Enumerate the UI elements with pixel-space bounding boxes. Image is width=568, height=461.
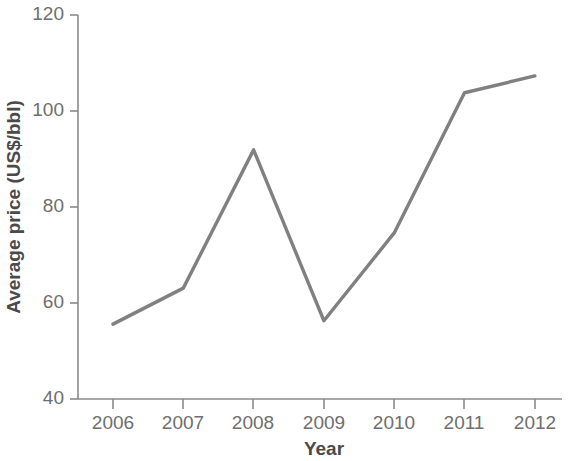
x-tick-label-2009: 2009 (303, 412, 345, 433)
y-tick-label-60: 60 (43, 291, 64, 312)
y-axis-title: Average price (US$/bbl) (3, 100, 24, 314)
x-tick-label-2011: 2011 (444, 412, 485, 433)
x-axis-title: Year (304, 438, 345, 459)
x-tick-label-2007: 2007 (162, 412, 204, 433)
x-tick-label-2008: 2008 (232, 412, 274, 433)
data-series-line (113, 76, 535, 324)
y-tick-label-120: 120 (32, 3, 64, 24)
x-tick-label-2010: 2010 (373, 412, 415, 433)
y-tick-label-100: 100 (32, 99, 64, 120)
x-tick-label-2006: 2006 (92, 412, 134, 433)
line-chart: 120 100 80 60 40 2006 2007 2008 2009 201… (0, 0, 568, 461)
chart-canvas: 120 100 80 60 40 2006 2007 2008 2009 201… (0, 0, 568, 461)
y-tick-label-40: 40 (43, 387, 64, 408)
x-tick-label-2012: 2012 (514, 412, 556, 433)
y-tick-label-80: 80 (43, 195, 64, 216)
